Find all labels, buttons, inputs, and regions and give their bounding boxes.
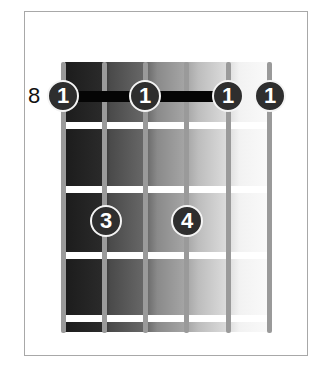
fret-line-3 bbox=[65, 252, 270, 259]
fret-line-2 bbox=[65, 186, 270, 193]
finger-dot: 3 bbox=[90, 205, 122, 237]
string-4 bbox=[184, 62, 189, 333]
string-2 bbox=[102, 62, 107, 333]
fret-number-label: 8 bbox=[28, 83, 40, 109]
finger-dot: 1 bbox=[254, 80, 286, 112]
fret-line-1 bbox=[65, 122, 270, 129]
fret-line-4 bbox=[65, 315, 270, 322]
finger-dot: 1 bbox=[129, 80, 161, 112]
finger-dot: 1 bbox=[212, 80, 244, 112]
finger-dot: 1 bbox=[47, 80, 79, 112]
finger-dot: 4 bbox=[171, 205, 203, 237]
